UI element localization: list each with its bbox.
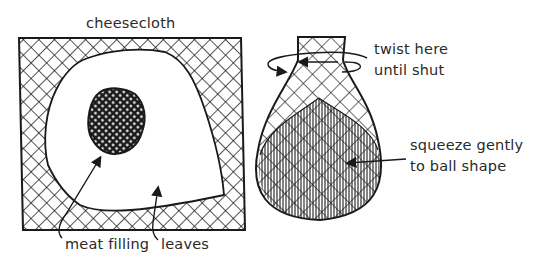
- twist-label-line2: until shut: [374, 61, 444, 80]
- cheesecloth-wrapping-diagram: cheesecloth meat filling leaves twist he…: [0, 0, 536, 268]
- cheesecloth-label: cheesecloth: [86, 14, 175, 33]
- twisted-bag: [240, 30, 406, 230]
- twist-label-line1: twist here: [374, 40, 448, 59]
- meat-filling-label: meat filling: [65, 235, 149, 254]
- squeeze-label-line1: squeeze gently: [410, 136, 523, 155]
- leaves-label: leaves: [161, 235, 209, 254]
- cheesecloth-square: [19, 38, 245, 240]
- diagram-illustration: [0, 0, 536, 268]
- squeeze-label-line2: to ball shape: [410, 157, 506, 176]
- meat-filling-blob: [88, 88, 144, 154]
